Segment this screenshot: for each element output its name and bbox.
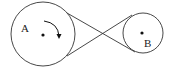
pulley-b-label: B bbox=[144, 37, 151, 49]
belt-lower-segment bbox=[67, 15, 132, 56]
pulley-a-label: A bbox=[21, 22, 29, 34]
pulley-a-center-dot bbox=[41, 33, 44, 36]
pulley-b-center-dot bbox=[140, 31, 143, 34]
pulley-diagram: A B bbox=[0, 0, 171, 68]
